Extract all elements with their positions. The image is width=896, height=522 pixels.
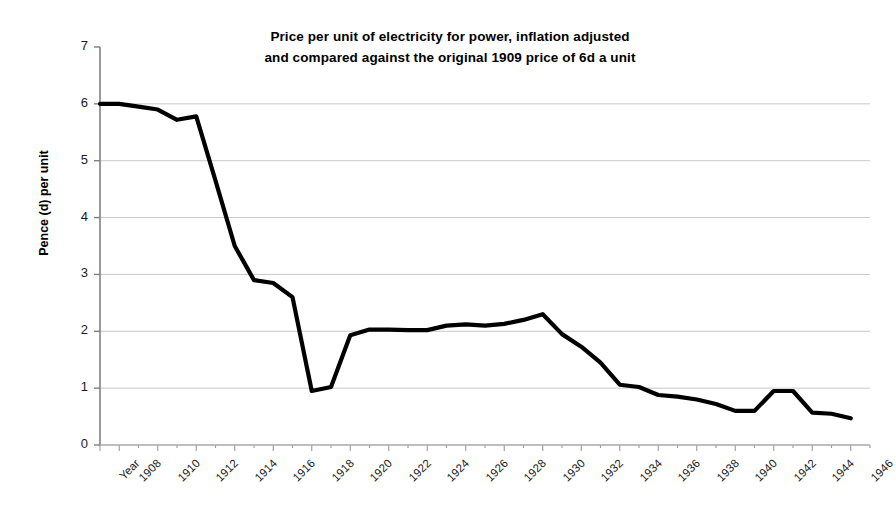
y-tick-label: 3 <box>64 265 88 280</box>
plot-area <box>0 0 896 522</box>
y-tick-label: 7 <box>64 38 88 53</box>
y-tick-label: 6 <box>64 95 88 110</box>
gridlines <box>100 104 870 388</box>
y-tick-label: 2 <box>64 322 88 337</box>
y-tick-label: 5 <box>64 152 88 167</box>
y-tick-label: 0 <box>64 436 88 451</box>
data-series-line <box>100 104 851 418</box>
y-tick-label: 4 <box>64 209 88 224</box>
x-axis-ticks <box>100 445 870 451</box>
y-tick-label: 1 <box>64 379 88 394</box>
y-axis-ticks <box>94 47 100 445</box>
chart-figure: Price per unit of electricity for power,… <box>0 0 896 522</box>
